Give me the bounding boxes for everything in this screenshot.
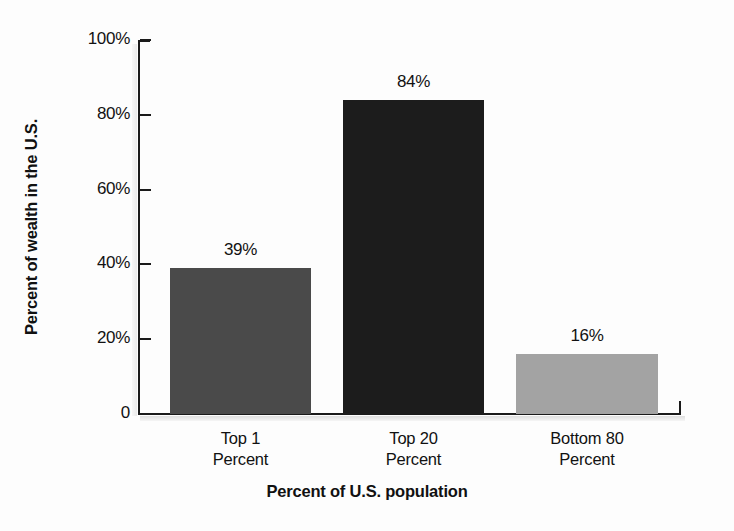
bar-value-label: 84% bbox=[343, 72, 484, 92]
bar-group: 39% bbox=[170, 40, 311, 414]
y-axis-tick-labels: 020%40%60%80%100% bbox=[48, 0, 130, 531]
bar-group: 84% bbox=[343, 40, 484, 414]
y-axis-tick-label: 20% bbox=[58, 328, 130, 348]
y-axis-tick-label: 60% bbox=[58, 179, 130, 199]
category-label-line: Percent bbox=[496, 449, 678, 470]
bar[interactable] bbox=[516, 354, 658, 414]
bar-value-label: 16% bbox=[516, 326, 658, 346]
category-label-line: Percent bbox=[323, 449, 504, 470]
bar[interactable] bbox=[170, 268, 311, 414]
category-label-line: Top 1 bbox=[150, 428, 331, 449]
category-label-line: Bottom 80 bbox=[496, 428, 678, 449]
bar-value-label: 39% bbox=[170, 240, 311, 260]
category-label-line: Percent bbox=[150, 449, 331, 470]
x-axis-category-label: Top 20Percent bbox=[323, 428, 504, 470]
bar[interactable] bbox=[343, 100, 484, 414]
y-axis-title: Percent of wealth in the U.S. bbox=[14, 40, 48, 414]
y-axis-tick-label: 40% bbox=[58, 253, 130, 273]
bar-chart: Percent of wealth in the U.S. 020%40%60%… bbox=[0, 0, 734, 531]
y-axis-tick-label: 80% bbox=[58, 104, 130, 124]
y-axis-tick-label: 100% bbox=[58, 29, 130, 49]
x-axis-shadow bbox=[140, 416, 685, 421]
plot-area: 39%84%16% bbox=[140, 40, 681, 414]
y-axis-shadow bbox=[132, 44, 137, 416]
x-axis-category-label: Bottom 80Percent bbox=[496, 428, 678, 470]
x-axis-title: Percent of U.S. population bbox=[0, 482, 734, 501]
x-axis-category-label: Top 1Percent bbox=[150, 428, 331, 470]
category-label-line: Top 20 bbox=[323, 428, 504, 449]
bar-group: 16% bbox=[516, 40, 658, 414]
y-axis-tick-label: 0 bbox=[58, 403, 130, 423]
